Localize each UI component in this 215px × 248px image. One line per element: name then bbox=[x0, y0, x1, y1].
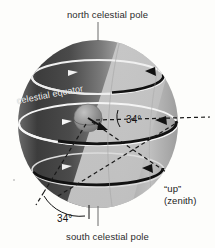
celestial-sphere-diagram bbox=[0, 0, 215, 248]
south-celestial-pole-label: south celestial pole bbox=[66, 231, 149, 242]
angle-label-bottom: 34° bbox=[57, 213, 72, 224]
dashed-bottom-tick bbox=[36, 192, 44, 205]
north-celestial-pole-label: north celestial pole bbox=[67, 9, 148, 20]
celestial-sphere-figure: north celestial pole south celestial pol… bbox=[0, 0, 215, 248]
scan-speck bbox=[13, 179, 15, 181]
angle-label-center: 34° bbox=[126, 114, 141, 125]
zenith-label-primary: “up” bbox=[164, 183, 181, 194]
zenith-label-secondary: (zenith) bbox=[164, 195, 196, 207]
zenith-label: “up” (zenith) bbox=[164, 183, 196, 206]
